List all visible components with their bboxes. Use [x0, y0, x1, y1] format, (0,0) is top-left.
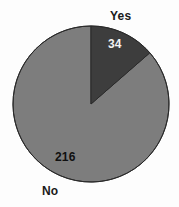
- pie-value-no: 216: [55, 150, 76, 164]
- pie-chart-canvas: [0, 0, 179, 207]
- pie-label-yes: Yes: [110, 9, 131, 23]
- pie-label-no: No: [42, 184, 58, 198]
- pie-chart: Yes 34 216 No: [0, 0, 179, 207]
- pie-value-yes: 34: [108, 37, 122, 51]
